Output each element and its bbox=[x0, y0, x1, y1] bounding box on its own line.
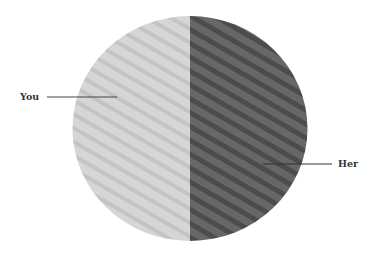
pie-chart: You Her bbox=[0, 0, 379, 258]
slice-label-you: You bbox=[19, 91, 39, 102]
slice-label-her: Her bbox=[338, 158, 359, 169]
